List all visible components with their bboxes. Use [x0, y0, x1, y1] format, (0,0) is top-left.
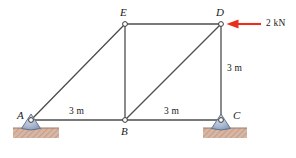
joint-B	[123, 118, 128, 123]
node-label-B: B	[121, 126, 128, 137]
joints-group	[29, 22, 224, 123]
node-label-D: D	[216, 7, 224, 18]
members-group	[31, 24, 221, 120]
joint-A	[29, 118, 34, 123]
node-label-C: C	[233, 110, 240, 121]
load-label-2kn: 2 kN	[266, 19, 286, 29]
ground-group	[13, 128, 247, 138]
node-label-E: E	[120, 7, 127, 18]
load-arrow-head	[227, 20, 239, 29]
joint-D	[219, 22, 224, 27]
joint-C	[219, 118, 224, 123]
node-label-A: A	[17, 110, 24, 121]
dimension-label-bc: 3 m	[164, 107, 179, 117]
dimension-label-dc: 3 m	[227, 64, 242, 74]
dimension-label-ab: 3 m	[69, 107, 84, 117]
truss-diagram: A B C D E 3 m 3 m 3 m 2 kN	[0, 0, 296, 158]
load-arrow-D	[227, 20, 262, 29]
joint-E	[123, 22, 128, 27]
truss-svg-canvas	[0, 0, 296, 158]
